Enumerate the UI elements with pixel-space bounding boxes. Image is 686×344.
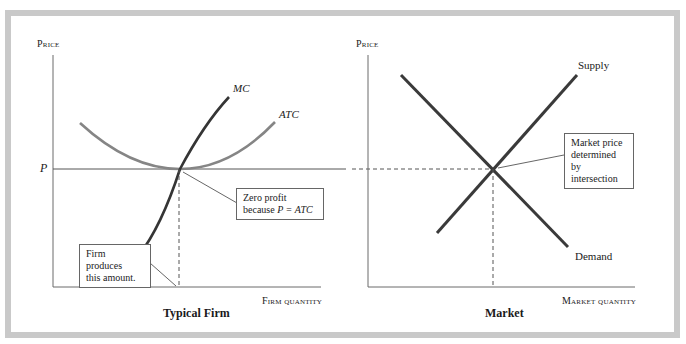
demand-curve	[401, 75, 568, 247]
zero-profit-leader	[183, 172, 237, 203]
zero-profit-annotation: Zero profit because P = ATC	[236, 188, 324, 220]
typical-firm-title: Typical Firm	[163, 306, 230, 321]
zero-profit-line2: because P = ATC	[243, 204, 317, 216]
market-y-axis-label: Price	[356, 38, 379, 49]
zero-profit-line1: Zero profit	[243, 192, 317, 204]
firm-produces-annotation: Firm produces this amount.	[79, 244, 151, 288]
firm-produces-line2: this amount.	[86, 272, 144, 284]
market-x-axis-label: Market quantity	[562, 295, 636, 306]
firm-x-axis-label: Firm quantity	[262, 295, 322, 306]
market-title: Market	[485, 306, 524, 321]
market-price-line1: Market price	[571, 137, 627, 149]
firm-produces-leader	[150, 263, 176, 286]
firm-y-axis-label: Price	[37, 38, 60, 49]
market-price-leader	[498, 155, 564, 168]
market-price-line3: intersection	[571, 173, 627, 185]
demand-label: Demand	[575, 250, 612, 262]
firm-produces-line1: Firm produces	[86, 248, 144, 272]
market-price-line2: determined by	[571, 149, 627, 173]
supply-curve	[437, 75, 577, 233]
atc-curve	[80, 122, 275, 169]
price-p-label: P	[40, 161, 47, 176]
supply-label: Supply	[578, 59, 609, 71]
market-price-annotation: Market price determined by intersection	[564, 133, 634, 189]
atc-label: ATC	[279, 108, 299, 120]
mc-label: MC	[233, 82, 250, 94]
